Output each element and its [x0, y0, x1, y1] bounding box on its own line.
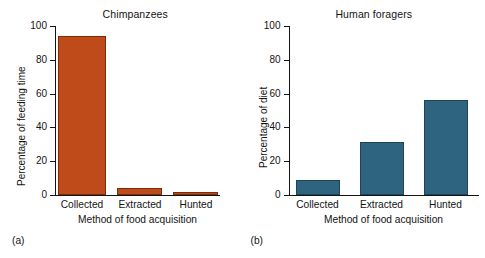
figure-two-panel-bar-charts: Chimpanzees Percentage of feeding time 0… [0, 0, 485, 258]
panel-a-bar-extracted [117, 188, 162, 195]
panel-b-human-foragers: Human foragers Percentage of diet 0 20 4… [243, 0, 485, 258]
panel-b-letter: (b) [251, 235, 263, 246]
panel-b-bar-hunted [424, 100, 468, 195]
panel-a-chimpanzees: Chimpanzees Percentage of feeding time 0… [0, 0, 243, 258]
panel-a-letter: (a) [12, 235, 24, 246]
panel-a-category-hunted: Hunted [180, 199, 213, 210]
panel-a-x-axis-label: Method of food acquisition [55, 214, 220, 225]
panel-b-category-collected: Collected [296, 199, 338, 210]
panel-a-bar-collected [58, 36, 106, 195]
panel-a-category-extracted: Extracted [118, 199, 161, 210]
panel-a-bar-hunted [173, 192, 218, 195]
panel-b-category-extracted: Extracted [360, 199, 403, 210]
panel-a-category-collected: Collected [61, 199, 103, 210]
panel-b-bar-collected [296, 180, 340, 195]
panel-b-x-axis-label: Method of food acquisition [289, 214, 479, 225]
panel-b-category-hunted: Hunted [429, 199, 462, 210]
panel-b-bar-extracted [360, 142, 404, 195]
